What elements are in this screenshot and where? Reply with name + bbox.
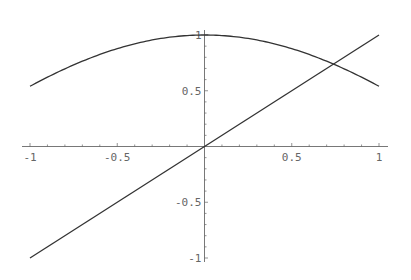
y-tick-label: -1: [188, 252, 201, 265]
y-tick-label: -0.5: [175, 196, 202, 209]
x-tick-label: 0.5: [282, 151, 302, 164]
x-tick-label: -1: [23, 151, 36, 164]
x-tick-label: 1: [376, 151, 383, 164]
y-tick-label: 0.5: [182, 85, 202, 98]
x-tick-label: -0.5: [104, 151, 131, 164]
x-tick-labels: -1-0.50.51: [23, 151, 382, 164]
plot-canvas: -1-0.50.51 10.5-0.5-1: [0, 0, 411, 280]
y-tick-labels: 10.5-0.5-1: [175, 29, 202, 265]
